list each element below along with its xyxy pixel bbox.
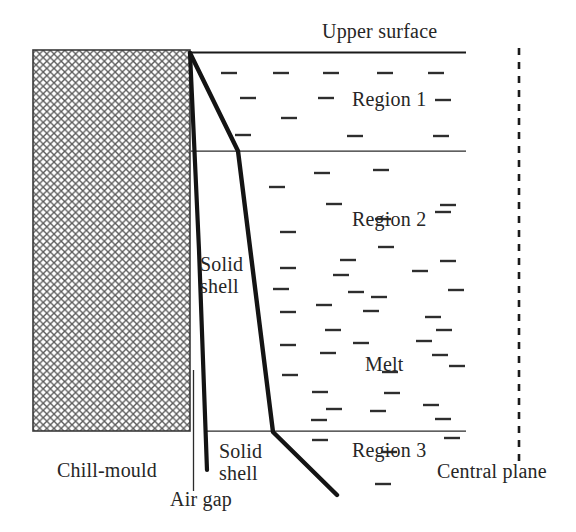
figure-canvas: Upper surface Region 1 Region 2 Melt Reg… [0, 0, 576, 532]
label-air-gap: Air gap [170, 489, 232, 510]
label-solid-shell-lower: Solid shell [219, 440, 262, 485]
chill-mould-block [33, 50, 190, 431]
label-region-1: Region 1 [352, 89, 426, 110]
label-central-plane: Central plane [437, 461, 547, 482]
label-solid-shell-upper: Solid shell [200, 253, 243, 298]
chill-mould-hatch-fill [33, 50, 190, 431]
label-melt: Melt [365, 354, 404, 375]
label-region-3: Region 3 [352, 440, 426, 461]
label-chill-mould: Chill-mould [57, 460, 157, 481]
label-solid-shell-upper-line1: Solid [200, 253, 243, 275]
label-upper-surface: Upper surface [322, 21, 437, 42]
label-solid-shell-lower-line2: shell [219, 462, 262, 484]
label-region-2: Region 2 [352, 209, 426, 230]
label-solid-shell-upper-line2: shell [200, 275, 243, 297]
solidification-diagram [0, 0, 576, 532]
melt-marks-group [221, 73, 465, 484]
label-solid-shell-lower-line1: Solid [219, 440, 262, 462]
